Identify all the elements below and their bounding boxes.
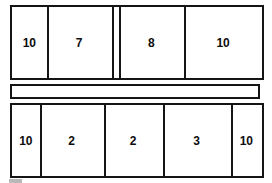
- top-bar-cell-2: 7: [47, 7, 112, 78]
- top-bar-cell-4: 8: [119, 7, 185, 78]
- middle-bar-label: [12, 86, 258, 97]
- bottom-bar-cell-3: 2: [104, 105, 163, 176]
- top-bar-cell-1: 10: [12, 7, 47, 78]
- top-measurement-bar: 10 7 8 10: [10, 5, 264, 80]
- bottom-bar-cell-1: 10: [12, 105, 40, 176]
- top-bar-inner: 10 7 8 10: [12, 7, 262, 78]
- bottom-measurement-bar: 10 2 2 3 10: [10, 103, 264, 178]
- middle-bar-inner: [12, 86, 258, 97]
- caption-stub: [9, 179, 22, 183]
- top-bar-cell-3-narrow-gap: [112, 7, 119, 78]
- bottom-bar-inner: 10 2 2 3 10: [12, 105, 262, 176]
- top-bar-cell-5: 10: [184, 7, 262, 78]
- bottom-bar-cell-4: 3: [163, 105, 231, 176]
- bottom-bar-cell-5: 10: [231, 105, 263, 176]
- segmented-bar-diagram: 10 7 8 10 10 2 2 3 10: [0, 0, 272, 183]
- bottom-bar-cell-2: 2: [40, 105, 104, 176]
- middle-spacer-bar: [10, 84, 260, 99]
